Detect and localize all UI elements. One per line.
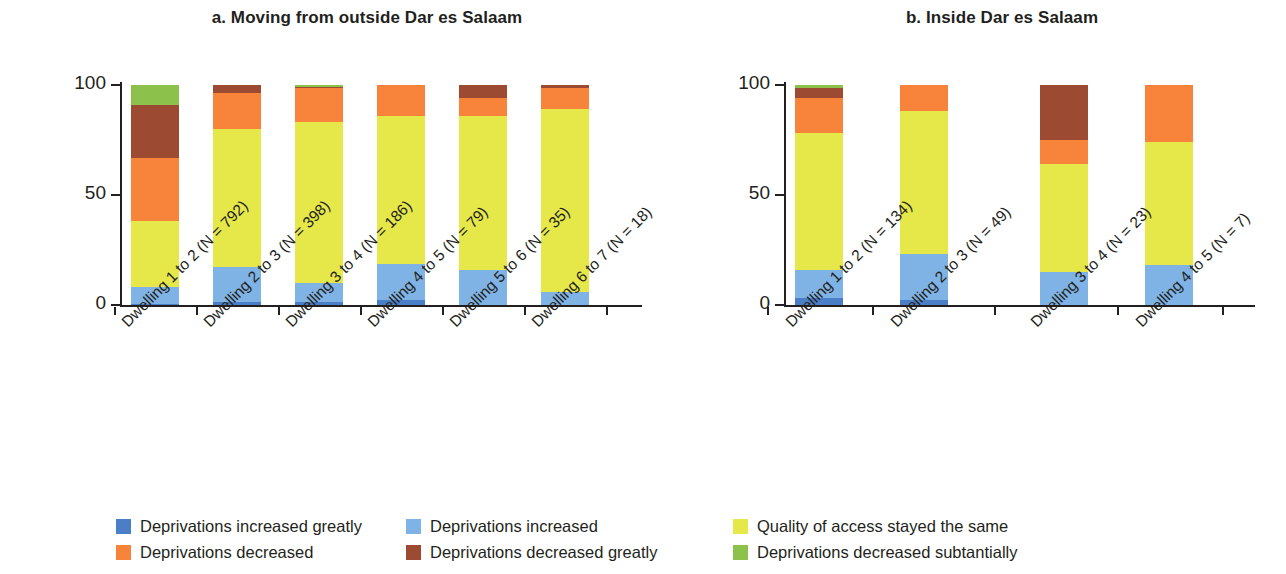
bar-segment-b-3-3	[1040, 164, 1088, 272]
bar-segment-b-3-5	[1040, 85, 1088, 140]
panel-a-x-tick-mark-6	[606, 307, 608, 315]
bar-segment-b-2-3	[900, 111, 948, 254]
panel-a-y-axis-line	[120, 82, 122, 305]
legend: Deprivations increased greatly Deprivati…	[116, 518, 1266, 570]
panel-b-y-tick-mark-0	[775, 304, 784, 306]
panel-b-title: b. Inside Dar es Salaam	[690, 8, 1286, 28]
legend-label-deprivations-decreased: Deprivations decreased	[140, 544, 313, 561]
panel-b-y-axis-line	[784, 82, 786, 305]
panel-a-y-tick-mark-100	[111, 84, 120, 86]
legend-item-deprivations-decreased-greatly[interactable]: Deprivations decreased greatly	[406, 544, 657, 561]
bar-segment-a-5-3	[459, 116, 507, 270]
panel-a-x-tick-mark-1	[196, 307, 198, 315]
bar-segment-a-4-3	[377, 116, 425, 265]
panel-a-x-tick-mark-5	[524, 307, 526, 315]
bar-segment-a-6-4	[541, 88, 589, 109]
panel-b-x-tick-mark-0	[767, 307, 769, 315]
bar-segment-a-2-5	[213, 85, 261, 93]
legend-label-deprivations-increased: Deprivations increased	[430, 518, 598, 535]
panel-b-x-tick-mark-3	[1117, 307, 1119, 315]
bar-segment-b-1-4	[795, 98, 843, 133]
panel-a-y-tick-mark-0	[111, 304, 120, 306]
bar-segment-a-5-4	[459, 98, 507, 116]
legend-label-deprivations-decreased-subtantially: Deprivations decreased subtantially	[757, 544, 1017, 561]
panel-b-x-axis-line	[784, 305, 1255, 307]
panel-b-y-tick-label-50: 50	[710, 182, 770, 204]
panel-a-x-tick-mark-2	[278, 307, 280, 315]
panel-a-y-tick-mark-50	[111, 194, 120, 196]
legend-label-quality-stayed-same: Quality of access stayed the same	[757, 518, 1008, 535]
legend-label-deprivations-increased-greatly: Deprivations increased greatly	[140, 518, 362, 535]
panel-b-x-tick-mark-1	[872, 307, 874, 315]
bar-segment-b-2-4	[900, 85, 948, 111]
stacked-bar-figure: a. Moving from outside Dar es Salaam b. …	[0, 0, 1286, 574]
panel-b-y-tick-mark-100	[775, 84, 784, 86]
legend-swatch-deprivations-decreased-greatly	[406, 545, 421, 560]
bar-segment-a-1-4	[131, 158, 179, 222]
bar-segment-b-1-5	[795, 88, 843, 98]
panel-b-y-tick-label-100: 100	[710, 72, 770, 94]
panel-b-y-tick-mark-50	[775, 194, 784, 196]
bar-segment-a-1-5	[131, 105, 179, 158]
panel-a-x-tick-mark-3	[360, 307, 362, 315]
legend-label-deprivations-decreased-greatly: Deprivations decreased greatly	[430, 544, 657, 561]
panel-b-y-tick-label-0: 0	[710, 292, 770, 314]
legend-swatch-deprivations-increased-greatly	[116, 519, 131, 534]
legend-item-deprivations-decreased-subtantially[interactable]: Deprivations decreased subtantially	[733, 544, 1017, 561]
legend-swatch-quality-stayed-same	[733, 519, 748, 534]
bar-segment-a-1-6	[131, 85, 179, 105]
bar-segment-b-1-3	[795, 133, 843, 269]
legend-item-quality-stayed-same[interactable]: Quality of access stayed the same	[733, 518, 1008, 535]
legend-item-deprivations-increased-greatly[interactable]: Deprivations increased greatly	[116, 518, 362, 535]
bar-segment-a-2-4	[213, 93, 261, 129]
panel-a-y-tick-label-50: 50	[46, 182, 106, 204]
bar-segment-b-4-3	[1145, 142, 1193, 265]
bar-segment-a-4-4	[377, 85, 425, 116]
bar-segment-a-3-4	[295, 88, 343, 122]
panel-a-x-tick-mark-4	[442, 307, 444, 315]
panel-a-title: a. Moving from outside Dar es Salaam	[0, 8, 712, 28]
legend-item-deprivations-increased[interactable]: Deprivations increased	[406, 518, 598, 535]
legend-row-2: Deprivations decreased Deprivations decr…	[116, 544, 1266, 569]
bar-segment-b-4-4	[1145, 85, 1193, 142]
panel-a-y-tick-label-0: 0	[46, 292, 106, 314]
panel-a-y-tick-label-100: 100	[46, 72, 106, 94]
legend-item-deprivations-decreased[interactable]: Deprivations decreased	[116, 544, 313, 561]
legend-swatch-deprivations-increased	[406, 519, 421, 534]
legend-row-1: Deprivations increased greatly Deprivati…	[116, 518, 1266, 543]
legend-swatch-deprivations-decreased-subtantially	[733, 545, 748, 560]
bar-segment-b-3-4	[1040, 140, 1088, 164]
legend-swatch-deprivations-decreased	[116, 545, 131, 560]
bar-segment-a-5-5	[459, 85, 507, 98]
panel-b-x-tick-mark-4	[1222, 307, 1224, 315]
panel-b-x-tick-mark-2	[994, 307, 996, 315]
panel-a-x-tick-mark-0	[114, 307, 116, 315]
